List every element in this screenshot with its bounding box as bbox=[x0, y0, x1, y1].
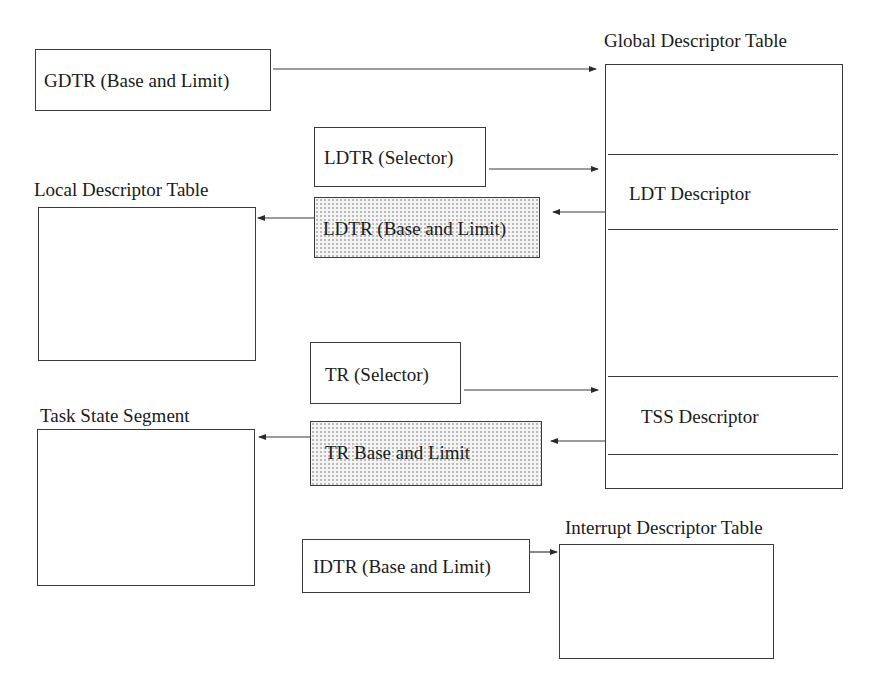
tr-selector-label: TR (Selector) bbox=[325, 365, 429, 384]
idtr-register-box: IDTR (Base and Limit) bbox=[302, 539, 530, 593]
tr-base-limit-label: TR Base and Limit bbox=[325, 443, 470, 462]
ldtr-selector-label: LDTR (Selector) bbox=[324, 148, 453, 167]
gdt-entry-ldt-descriptor: LDT Descriptor bbox=[629, 184, 751, 203]
idtr-label: IDTR (Base and Limit) bbox=[313, 557, 491, 576]
gdt-divider-4 bbox=[608, 454, 838, 455]
idt-table bbox=[559, 544, 774, 659]
ldtr-base-limit-label: LDTR (Base and Limit) bbox=[323, 219, 506, 238]
ldtr-selector-box: LDTR (Selector) bbox=[314, 127, 486, 187]
ldt-table bbox=[38, 207, 256, 361]
gdt-divider-2 bbox=[608, 229, 838, 230]
idt-title: Interrupt Descriptor Table bbox=[565, 518, 763, 537]
ldtr-base-limit-box: LDTR (Base and Limit) bbox=[314, 197, 540, 258]
gdtr-register-box: GDTR (Base and Limit) bbox=[35, 49, 271, 111]
gdt-entry-tss-descriptor: TSS Descriptor bbox=[641, 407, 759, 426]
gdt-divider-1 bbox=[608, 154, 838, 155]
gdtr-label: GDTR (Base and Limit) bbox=[44, 71, 229, 90]
tss-table bbox=[37, 429, 255, 586]
gdt-divider-3 bbox=[608, 376, 838, 377]
tr-selector-box: TR (Selector) bbox=[310, 342, 461, 404]
tr-base-limit-box: TR Base and Limit bbox=[310, 421, 542, 486]
tss-title: Task State Segment bbox=[40, 406, 190, 425]
gdt-title: Global Descriptor Table bbox=[604, 31, 787, 50]
gdt-table: LDT Descriptor TSS Descriptor bbox=[605, 64, 843, 489]
ldt-title: Local Descriptor Table bbox=[34, 180, 209, 199]
